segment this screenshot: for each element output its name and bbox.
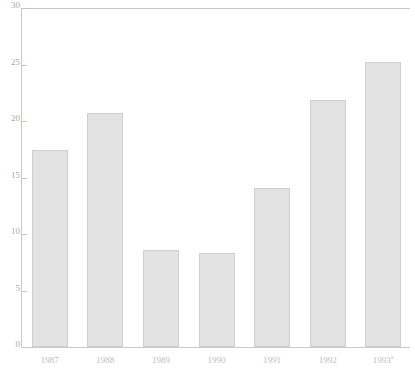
y-tick-label: 15	[11, 171, 20, 180]
bar-group: 1989	[143, 8, 179, 347]
bar-chart: 051015202530 198719881989199019911992199…	[0, 0, 415, 370]
y-tick-label: 30	[11, 1, 20, 10]
bar	[365, 62, 401, 347]
bar	[143, 250, 179, 347]
x-axis-label: 1993a	[357, 352, 409, 365]
x-axis-baseline	[21, 347, 410, 348]
bar-group: 1993a	[365, 8, 401, 347]
y-tick-label: 0	[16, 340, 21, 349]
y-axis-tick: 0	[0, 347, 27, 348]
x-axis-label: 1988	[79, 355, 131, 365]
bar	[87, 113, 123, 347]
bar-group: 1988	[87, 8, 123, 347]
y-tick-label: 25	[11, 58, 20, 67]
bar	[310, 100, 346, 347]
x-axis-label: 1987	[24, 355, 76, 365]
x-axis-label-superscript: a	[391, 354, 394, 360]
y-tick-label: 10	[11, 227, 20, 236]
x-axis-label: 1991	[246, 355, 298, 365]
bar	[32, 150, 68, 347]
bars-layer: 1987198819891990199119921993a	[21, 8, 410, 347]
x-axis-label: 1990	[191, 355, 243, 365]
x-axis-label: 1992	[302, 355, 354, 365]
bar-group: 1992	[310, 8, 346, 347]
bar-group: 1991	[254, 8, 290, 347]
y-tick-mark	[22, 347, 27, 348]
bar	[254, 188, 290, 347]
bar	[199, 253, 235, 347]
x-axis-label: 1989	[135, 355, 187, 365]
y-tick-label: 20	[11, 114, 20, 123]
bar-group: 1990	[199, 8, 235, 347]
bar-group: 1987	[32, 8, 68, 347]
y-tick-label: 5	[16, 284, 21, 293]
chart-title-sliver	[0, 0, 415, 5]
